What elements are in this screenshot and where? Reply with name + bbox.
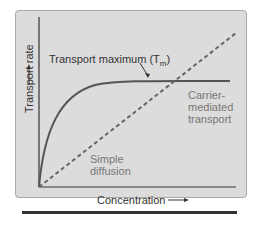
divider-bar (22, 211, 237, 214)
x-arrowhead-icon (184, 198, 189, 202)
tm-label: Transport maximum (Tm) (49, 53, 170, 70)
x-axis-label: Concentration (97, 194, 166, 206)
carrier-label: Carrier- mediated transport (188, 89, 233, 125)
tm-arrowhead-icon (145, 73, 150, 78)
simple-diffusion-label: Simple diffusion (90, 153, 131, 177)
y-axis-label: Transport rate (23, 44, 35, 113)
